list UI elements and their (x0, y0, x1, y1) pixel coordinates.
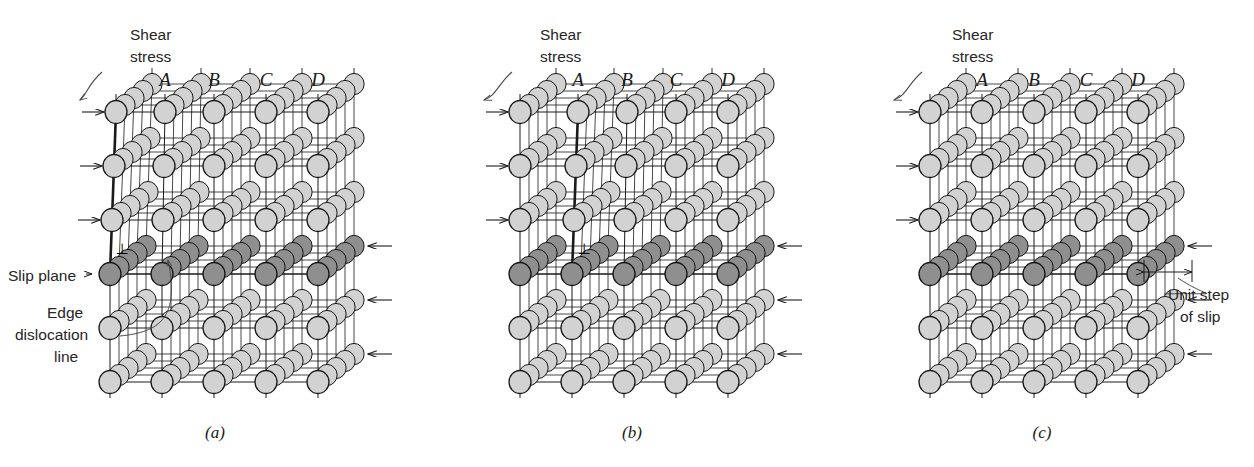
atom (1127, 317, 1149, 340)
shear-stress-label-b-line1: Shear (540, 26, 581, 43)
column-label-A: A (570, 69, 584, 90)
atom (103, 155, 125, 178)
atom (1075, 371, 1097, 394)
atom (255, 317, 277, 340)
atom (509, 155, 531, 178)
panel-caption-c: (c) (1033, 423, 1052, 442)
atom-slip-plane (561, 263, 583, 286)
edge-dislocation-label-line3: line (54, 348, 78, 365)
atom (717, 371, 739, 394)
atom-slip-plane (1023, 263, 1045, 286)
slip-plane-label: Slip plane (8, 267, 76, 284)
shear-stress-label-c-line1: Shear (952, 26, 993, 43)
atom (307, 317, 329, 340)
atom (99, 371, 121, 394)
column-label-D: D (1130, 69, 1145, 90)
edge-dislocation-label-line1: Edge (47, 304, 83, 321)
atom (665, 371, 687, 394)
atom (971, 209, 993, 232)
atom (971, 371, 993, 394)
atom (307, 209, 329, 232)
atom (203, 101, 225, 124)
panel-caption-b: (b) (622, 423, 642, 442)
atom (665, 209, 687, 232)
atom (509, 317, 531, 340)
column-label-C: C (260, 69, 273, 90)
atom (255, 371, 277, 394)
dislocation-diagram-svg: ABCD⊥ABCD⊥ABCD Shear stress Slip plane E… (0, 0, 1254, 467)
atom (665, 155, 687, 178)
atom-slip-plane (509, 263, 531, 286)
atom (203, 209, 225, 232)
unit-step-label-line2: of slip (1180, 308, 1221, 325)
atom-slip-plane (717, 263, 739, 286)
atom (99, 317, 121, 340)
atom-slip-plane (1075, 263, 1097, 286)
atom (509, 371, 531, 394)
atom (307, 101, 329, 124)
atom (255, 155, 277, 178)
atom (919, 371, 941, 394)
atom-slip-plane (665, 263, 687, 286)
atom (153, 155, 175, 178)
atom (255, 101, 277, 124)
column-label-C: C (1080, 69, 1093, 90)
shear-stress-label-a-line1: Shear (130, 26, 171, 43)
atom (567, 101, 589, 124)
column-label-A: A (974, 69, 988, 90)
atom (307, 371, 329, 394)
atom (717, 155, 739, 178)
atom (919, 101, 941, 124)
atom (717, 317, 739, 340)
atom (971, 101, 993, 124)
atom (152, 209, 174, 232)
atom (105, 101, 127, 124)
atom (1023, 101, 1045, 124)
atom (509, 209, 531, 232)
shear-stress-label-c-line2: stress (952, 48, 994, 65)
atom (1127, 101, 1149, 124)
atom (615, 155, 637, 178)
atom (1127, 371, 1149, 394)
atom (1075, 155, 1097, 178)
atom (919, 317, 941, 340)
atom (919, 155, 941, 178)
dislocation-symbol: ⊥ (577, 240, 590, 258)
unit-step-label-line1: Unit step (1168, 286, 1229, 303)
dislocation-symbol: ⊥ (115, 240, 128, 258)
atom-slip-plane (307, 263, 329, 286)
atom-slip-plane (203, 263, 225, 286)
atom (203, 155, 225, 178)
atom (613, 317, 635, 340)
atom-slip-plane (613, 263, 635, 286)
atom (1023, 317, 1045, 340)
atom (1127, 209, 1149, 232)
atom (971, 317, 993, 340)
column-label-D: D (720, 69, 735, 90)
atom-slip-plane (151, 263, 173, 286)
atom (307, 155, 329, 178)
column-label-B: B (621, 69, 633, 90)
atom (203, 317, 225, 340)
atom (509, 101, 531, 124)
shear-stress-label-b-line2: stress (540, 48, 582, 65)
column-label-D: D (310, 69, 325, 90)
atom (616, 101, 638, 124)
atom (971, 155, 993, 178)
atom (1023, 371, 1045, 394)
atom (665, 101, 687, 124)
atom (1075, 101, 1097, 124)
atom (561, 317, 583, 340)
atom (717, 209, 739, 232)
panel-caption-a: (a) (205, 423, 225, 442)
atom (561, 371, 583, 394)
column-label-B: B (208, 69, 220, 90)
atom (717, 101, 739, 124)
atom-slip-plane (971, 263, 993, 286)
column-label-B: B (1028, 69, 1040, 90)
atom-slip-plane (919, 263, 941, 286)
atom-slip-plane (1127, 263, 1149, 286)
atom-slip-plane (255, 263, 277, 286)
atom (614, 209, 636, 232)
column-label-A: A (157, 69, 171, 90)
